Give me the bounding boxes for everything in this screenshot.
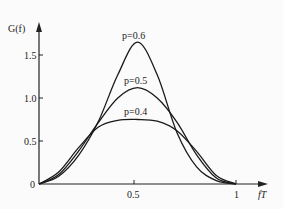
origin-label: 0 (30, 179, 35, 190)
x-tick-label: 1 (234, 189, 239, 200)
y-tick-label: 1.5 (24, 50, 37, 61)
axes (36, 22, 268, 187)
annotation-p05: p=0.5 (124, 75, 147, 86)
annotation-p04: p=0.4 (124, 106, 147, 117)
x-axis-label: fT (258, 189, 268, 200)
y-tick-label: 1.0 (24, 93, 37, 104)
chart: G(f) 1.5 1.0 0.5 0 0.5 1 fT p=0.6 p=0.5 … (0, 0, 283, 209)
y-axis-arrow-icon (36, 22, 42, 32)
x-axis-arrow-icon (258, 181, 268, 187)
annotation-p06: p=0.6 (122, 30, 145, 41)
x-tick-label: 0.5 (127, 189, 140, 200)
y-tick-label: 0.5 (24, 136, 37, 147)
curve-p-0.5 (39, 88, 236, 184)
curve-p-0.4 (39, 119, 236, 184)
y-axis-label: G(f) (8, 23, 25, 35)
